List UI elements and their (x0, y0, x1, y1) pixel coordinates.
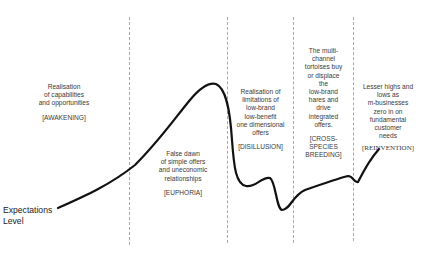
phase-text: low-brand (294, 88, 353, 96)
phase-euphoria: False dawn of simple offers and uneconom… (148, 150, 218, 197)
phase-text: needs (354, 132, 422, 140)
phase-text: False dawn (148, 150, 218, 158)
axis-label-line-1: Expectations (3, 205, 52, 216)
phase-text: limitations of (228, 96, 293, 104)
tag-line: SPECIES (294, 143, 353, 151)
phase-tag-awakening: [AWAKENING] (24, 114, 104, 122)
phase-text: and uneconomic (148, 166, 218, 174)
phase-text: relationships (148, 175, 218, 183)
axis-label-line-2: Level (3, 216, 52, 227)
phase-text: hares and (294, 96, 353, 104)
phase-disillusion: Realisation of limitations of low-brand … (228, 88, 293, 151)
phase-tag-euphoria: [EUPHORIA] (148, 189, 218, 197)
phase-text: Realisation of (228, 88, 293, 96)
phase-text: customer (354, 124, 422, 132)
phase-text: Lesser highs and (354, 83, 422, 91)
phase-text: zero in on (354, 108, 422, 116)
expectations-level-label: Expectations Level (3, 205, 52, 226)
phase-cross-species-breeding: The multi- channel tortoises buy or disp… (294, 47, 353, 160)
phase-text: or displace (294, 72, 353, 80)
phase-text: of simple offers (148, 158, 218, 166)
phase-text: fundamental (354, 116, 422, 124)
phase-text: low-benefit (228, 113, 293, 121)
phase-tag-cross-species-breeding: [CROSS- SPECIES BREEDING] (294, 135, 353, 160)
phase-text: Realisation (24, 83, 104, 91)
phase-text: offers. (294, 121, 353, 129)
tag-line: BREEDING] (294, 151, 353, 159)
tag-line: [CROSS- (294, 135, 353, 143)
phase-text: drive (294, 104, 353, 112)
phase-tag-reinvention: [REINVENTION] (354, 144, 422, 152)
phase-text: The multi- (294, 47, 353, 55)
phase-text: and opportunities (24, 99, 104, 107)
phase-text: m-businesses (354, 99, 422, 107)
phase-text: offers (228, 129, 293, 137)
phase-text: low-brand (228, 104, 293, 112)
phase-text: the (294, 80, 353, 88)
phase-reinvention: Lesser highs and lows as m-businesses ze… (354, 83, 422, 153)
phase-text: tortoises buy (294, 63, 353, 71)
phase-text: one dimensional (228, 121, 293, 129)
phase-text: integrated (294, 113, 353, 121)
phase-awakening: Realisation of capabilities and opportun… (24, 83, 104, 122)
phase-text: channel (294, 55, 353, 63)
phase-text: of capabilities (24, 91, 104, 99)
phase-text: lows as (354, 91, 422, 99)
phase-tag-disillusion: [DISILLUSION] (228, 143, 293, 151)
